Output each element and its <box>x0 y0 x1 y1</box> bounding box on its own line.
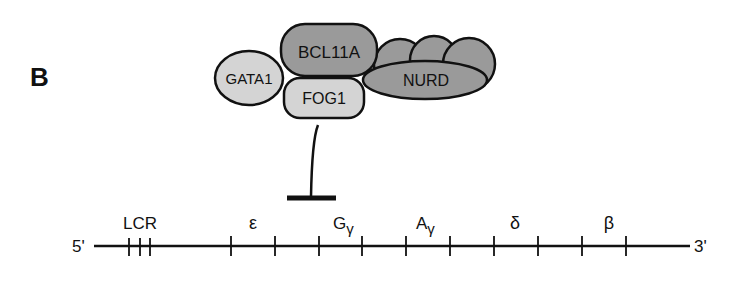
three-prime-label: 3' <box>694 237 707 256</box>
fog1-label: FOG1 <box>302 90 346 107</box>
diagram-canvas: B BCL11A GATA1 FOG1 NURD 5' 3' <box>0 0 744 297</box>
g-gamma-label: Gγ <box>333 214 354 237</box>
five-prime-label: 5' <box>72 237 85 256</box>
beta-label: β <box>604 213 614 233</box>
a-gamma-label: Aγ <box>416 214 435 237</box>
globin-locus: 5' 3' LCR ε Gγ Aγ δ β <box>72 213 707 256</box>
nurd-label: NURD <box>403 72 449 89</box>
repression-arrow <box>287 125 336 198</box>
delta-label: δ <box>510 213 520 233</box>
bcl11a-protein: BCL11A <box>281 24 377 76</box>
fog1-protein: FOG1 <box>284 78 364 118</box>
lcr-label: LCR <box>123 214 157 233</box>
bcl11a-label: BCL11A <box>298 43 361 62</box>
panel-label: B <box>30 62 49 92</box>
gata1-label: GATA1 <box>226 70 273 87</box>
gata1-protein: GATA1 <box>215 51 283 105</box>
nurd-complex: NURD <box>363 61 487 99</box>
epsilon-label: ε <box>249 213 257 233</box>
